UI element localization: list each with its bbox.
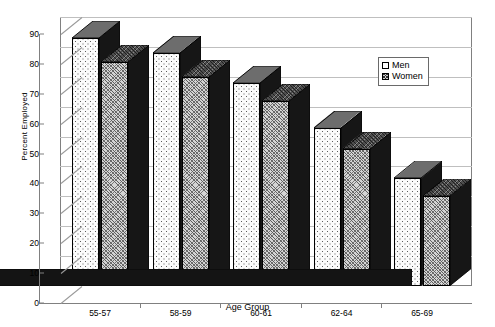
y-tick-label: 20 [21,238,39,248]
y-tick-mark [40,34,44,35]
bar-side-face [370,132,391,286]
y-tick-label: 40 [21,178,39,188]
bar-women-58-59 [182,60,230,286]
bar-women-65-69 [423,179,471,286]
bar-front-face [343,149,370,286]
gridline [60,17,472,18]
bar-top-outline [314,111,362,129]
bar-side-face [128,45,149,286]
bar-top-outline [101,45,149,63]
y-tick-mark [40,93,44,94]
y-tick-mark [40,63,44,64]
y-tick-mark [40,153,44,154]
bar-top-outline [72,21,120,39]
y-tick-label: 90 [21,29,39,39]
y-tick-label: 50 [21,149,39,159]
bar-front-face [314,128,341,286]
bar-top-outline [423,179,471,197]
bar-top-outline [394,161,442,179]
y-tick-mark [40,213,44,214]
y-tick-label: 10 [21,268,39,278]
bar-front-face [233,83,260,286]
legend-label-men: Men [392,60,410,71]
legend-item-women: Women [382,71,423,82]
bar-women-60-61 [262,84,310,286]
women-swatch-icon [382,73,389,80]
bar-top-outline [262,84,310,102]
bar-top-outline [182,60,230,78]
bar-top-outline [233,66,281,84]
legend-item-men: Men [382,60,423,71]
bar-front-face [262,101,289,286]
y-tick-label: 70 [21,89,39,99]
bar-side-face [209,60,230,286]
bar-chart: Percent Employed 0102030405060708090 55-… [0,0,495,327]
bar-front-face [72,38,99,286]
bar-front-face [101,62,128,286]
y-tick-label: 80 [21,59,39,69]
y-tick-mark [40,243,44,244]
y-tick-label: 30 [21,208,39,218]
y-tick-mark [40,123,44,124]
bar-women-62-64 [343,132,391,286]
y-tick-mark [40,273,44,274]
bar-front-face [182,77,209,286]
x-axis-title: Age Group [0,302,495,312]
y-tick-label: 60 [21,119,39,129]
y-axis: 0102030405060708090 [39,17,61,303]
bar-side-face [289,84,310,286]
y-tick-mark [40,183,44,184]
men-swatch-icon [382,62,389,69]
bar-women-55-57 [101,45,149,286]
bar-top-outline [343,132,391,150]
legend-label-women: Women [392,71,423,82]
bar-front-face [423,196,450,286]
bar-top-outline [153,36,201,54]
legend: Men Women [378,57,429,86]
bar-front-face [153,53,180,286]
